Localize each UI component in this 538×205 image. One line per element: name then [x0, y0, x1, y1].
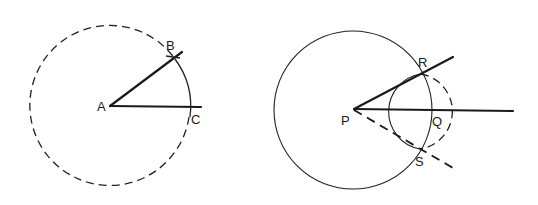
- label-q: Q: [432, 114, 442, 129]
- figure-left: A B C: [30, 25, 201, 185]
- label-s: S: [415, 154, 424, 169]
- label-a: A: [97, 99, 106, 114]
- ray-ac: [110, 106, 201, 107]
- label-r: R: [418, 55, 427, 70]
- label-p: P: [341, 113, 350, 128]
- label-b: B: [166, 38, 175, 53]
- label-c: C: [191, 112, 200, 127]
- figure-right: P Q R S: [274, 31, 513, 189]
- arc-rs-solid: [389, 74, 421, 149]
- geometry-diagram: A B C P Q R S: [0, 0, 538, 205]
- line-pr: [354, 57, 453, 109]
- ray-ab: [110, 52, 182, 106]
- arc-bc: [175, 59, 191, 117]
- arc-rs-dashed: [420, 74, 452, 149]
- line-pq: [354, 109, 513, 111]
